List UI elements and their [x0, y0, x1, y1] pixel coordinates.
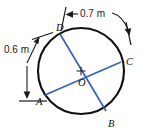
geometry-figure: A B C D O 0.6 m 0.7 m: [0, 0, 150, 138]
dimension-label-top: 0.7 m: [80, 9, 105, 19]
dim-top-arrowhead-left: [66, 11, 74, 18]
chord-db: [60, 34, 106, 111]
figure-canvas: [0, 0, 150, 138]
vertex-label-a: A: [36, 97, 42, 108]
vertex-label-b: B: [108, 119, 114, 130]
dimension-label-left: 0.6 m: [4, 45, 29, 55]
dim-top-arrowhead-right: [124, 28, 131, 35]
dim-top-leader-right: [112, 13, 128, 30]
vertex-label-d: D: [56, 23, 64, 34]
dim-left-arrowhead-lower: [24, 92, 31, 100]
vertex-label-o: O: [78, 78, 86, 89]
dim-left-extension-top: [32, 33, 53, 40]
vertex-label-c: C: [126, 57, 133, 68]
